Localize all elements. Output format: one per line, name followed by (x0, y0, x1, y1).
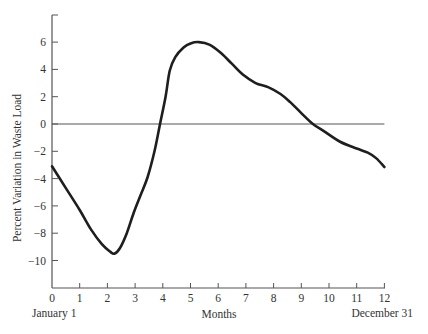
y-tick-label: 6 (40, 36, 46, 48)
x-tick-label: 11 (351, 292, 362, 304)
x-tick-label: 2 (105, 292, 111, 304)
y-ticks: 6420−2−4−6−8−10 (28, 36, 58, 266)
start-date-label: January 1 (32, 307, 77, 320)
x-tick-label: 5 (188, 292, 194, 304)
x-tick-label: 9 (298, 292, 304, 304)
x-tick-label: 3 (132, 292, 138, 304)
x-tick-label: 1 (77, 292, 83, 304)
x-tick-label: 8 (271, 292, 277, 304)
y-tick-label: −2 (34, 145, 46, 157)
x-tick-label: 10 (323, 292, 335, 304)
x-tick-label: 4 (160, 292, 166, 304)
y-tick-label: −8 (34, 227, 46, 239)
y-tick-label: −4 (34, 173, 46, 185)
x-tick-label: 7 (243, 292, 249, 304)
y-tick-label: 4 (40, 63, 46, 75)
y-tick-label: 2 (40, 91, 46, 103)
x-ticks: 0123456789101112 (49, 283, 390, 304)
chart: 6420−2−4−6−8−10 0123456789101112 Percent… (0, 0, 428, 334)
x-tick-label: 6 (215, 292, 221, 304)
y-tick-label: 0 (40, 118, 46, 130)
y-tick-label: −10 (28, 255, 46, 267)
x-axis-title: Months (201, 308, 237, 320)
y-axis-title: Percent Variation in Waste Load (11, 94, 23, 242)
end-date-label: December 31 (351, 307, 413, 319)
waste-load-curve (52, 42, 384, 254)
axes (52, 15, 385, 288)
y-tick-label: −6 (34, 200, 46, 212)
x-tick-label: 12 (379, 292, 391, 304)
x-tick-label: 0 (49, 292, 55, 304)
